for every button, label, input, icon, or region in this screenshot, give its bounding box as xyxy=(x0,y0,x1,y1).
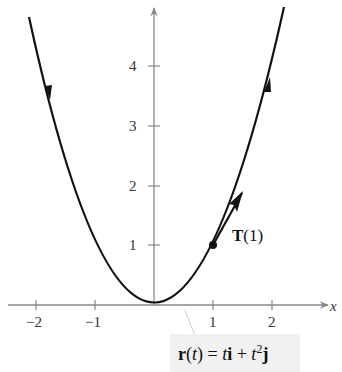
point-r1 xyxy=(209,241,217,249)
x-tick-label: 1 xyxy=(209,314,217,331)
y-tick-label: 1 xyxy=(129,237,137,254)
tangent-label: T(1) xyxy=(232,226,263,246)
parabola-curve xyxy=(29,7,284,303)
x-tick-label: 2 xyxy=(268,314,276,331)
y-tick-label: 2 xyxy=(129,178,137,195)
tangent-arrowhead xyxy=(229,191,243,212)
y-tick-label: 3 xyxy=(129,118,137,135)
equation-label: r(t) = ti + t2j xyxy=(178,342,268,365)
x-tick-label: −2 xyxy=(26,314,42,331)
parabola-plot xyxy=(0,0,342,372)
x-axis-label: x xyxy=(330,298,337,315)
x-tick-label: −1 xyxy=(85,314,101,331)
y-tick-label: 4 xyxy=(129,58,137,75)
